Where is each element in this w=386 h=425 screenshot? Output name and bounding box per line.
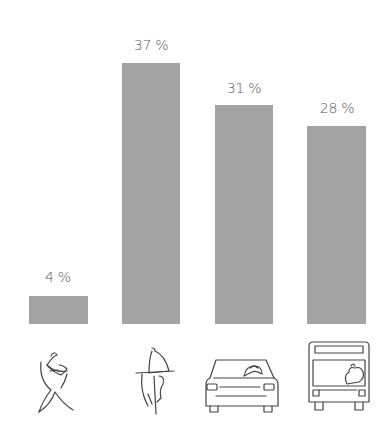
value-label-bus: 28 %: [292, 100, 382, 116]
value-label-walking: 4 %: [13, 269, 103, 285]
car-icon: [204, 356, 280, 414]
bar-bus: [307, 126, 366, 324]
value-label-car: 31 %: [199, 80, 289, 96]
bus-icon: [305, 340, 373, 414]
bar-chart: 4 % 37 % 31 % 28 %: [0, 0, 386, 425]
bar-walking: [29, 296, 88, 324]
bar-cycling: [122, 63, 180, 324]
bar-car: [215, 105, 273, 324]
value-label-cycling: 37 %: [106, 37, 196, 53]
cyclist-icon: [132, 344, 178, 416]
walking-person-icon: [33, 344, 85, 416]
